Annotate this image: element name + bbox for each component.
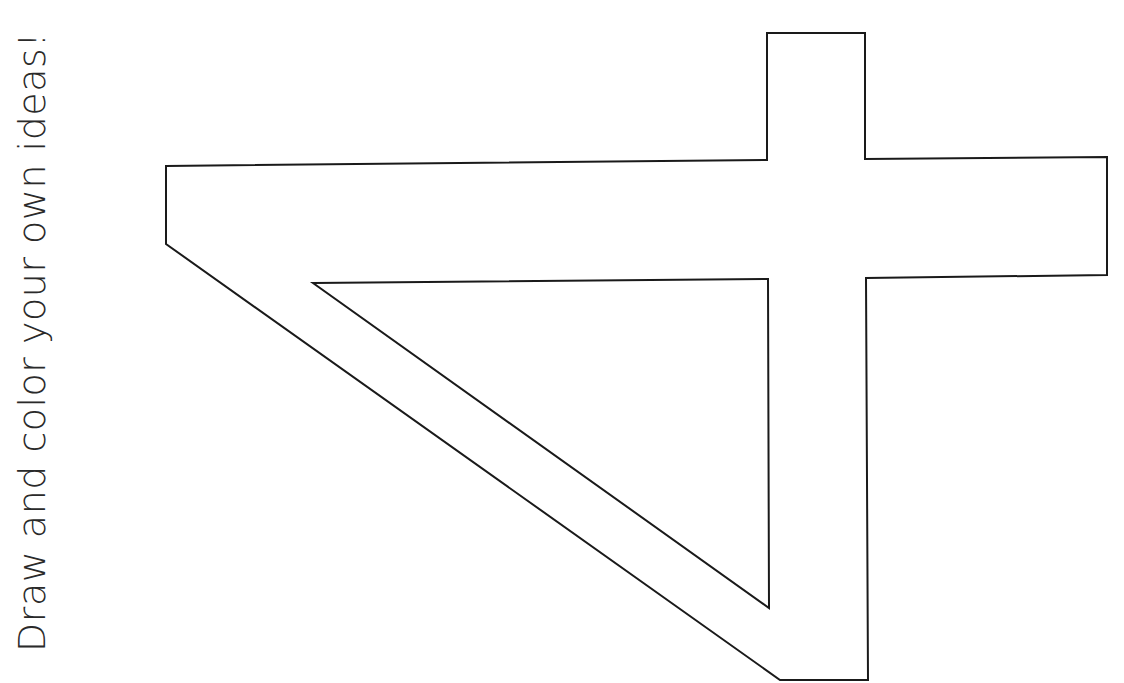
numeral-inner-counter: [313, 279, 769, 608]
coloring-page: Draw and color your own ideas!: [0, 0, 1124, 683]
numeral-four-outline: [0, 0, 1124, 683]
